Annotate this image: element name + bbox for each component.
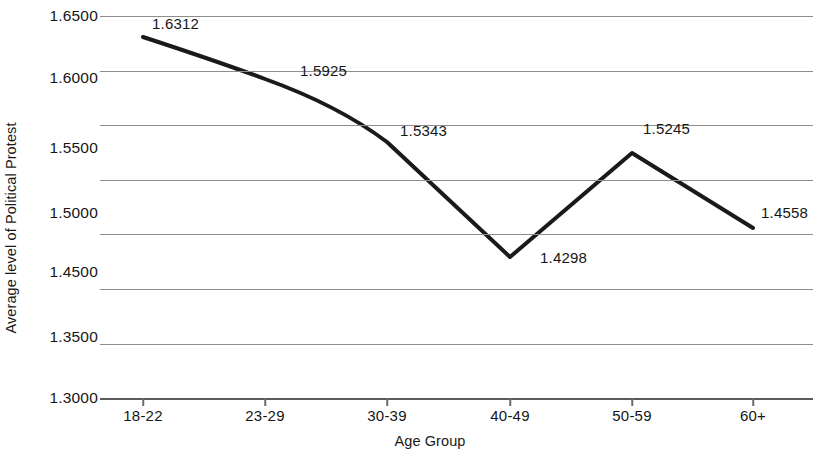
y-axis-tick-label: 1.5000 (6, 204, 98, 222)
x-axis-tick (386, 398, 388, 406)
data-point-label: 1.5925 (300, 62, 347, 79)
data-point-label: 1.5245 (643, 120, 690, 137)
data-point-label: 1.6312 (152, 15, 199, 32)
x-axis-tick (752, 398, 754, 406)
y-axis-tick-labels: 1.65001.60001.55001.50001.45001.35001.30… (0, 0, 98, 456)
data-point-label: 1.4298 (540, 249, 587, 266)
gridline (100, 234, 813, 235)
y-axis-tick-label: 1.5500 (6, 139, 98, 157)
x-axis-tick-label: 23-29 (245, 407, 284, 424)
y-axis-tick-label: 1.3000 (6, 389, 98, 407)
data-point-label: 1.5343 (400, 122, 447, 139)
gridline (100, 71, 813, 72)
y-axis-tick-label: 1.3500 (6, 328, 98, 346)
x-axis-tick (264, 398, 266, 406)
x-axis-title: Age Group (100, 433, 760, 449)
x-axis-tick-label: 40-49 (490, 407, 529, 424)
gridline (100, 289, 813, 290)
series-path (143, 37, 753, 257)
x-axis-tick-label: 30-39 (367, 407, 406, 424)
gridline (100, 125, 813, 126)
line-chart: Average level of Political Protest 1.650… (0, 0, 815, 456)
x-axis-tick-label: 60+ (740, 407, 766, 424)
x-axis-tick-label: 18-22 (123, 407, 162, 424)
x-axis-line (100, 398, 813, 400)
y-axis-tick-label: 1.6000 (6, 69, 98, 87)
data-point-label: 1.4558 (761, 204, 808, 221)
y-axis-tick-label: 1.6500 (6, 7, 98, 25)
x-axis-tick (631, 398, 633, 406)
gridline (100, 16, 813, 17)
x-axis-tick-label: 50-59 (612, 407, 651, 424)
plot-area: 18-2223-2930-3940-4950-5960+1.63121.5925… (100, 0, 813, 456)
y-axis-tick-label: 1.4500 (6, 263, 98, 281)
gridline (100, 180, 813, 181)
gridline (100, 344, 813, 345)
x-axis-tick (509, 398, 511, 406)
series-line-political-protest (100, 0, 813, 456)
x-axis-tick (142, 398, 144, 406)
